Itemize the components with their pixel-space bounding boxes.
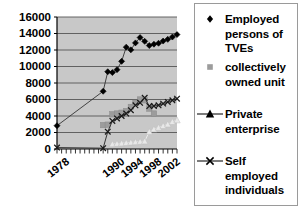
square-marker-icon bbox=[195, 60, 225, 74]
legend-item: collectively owned unit bbox=[195, 60, 299, 89]
y-tick-label: 0 bbox=[45, 143, 51, 155]
x-tick-label: 1978 bbox=[45, 155, 72, 180]
y-tick-label: 14000 bbox=[19, 27, 51, 39]
triangle-marker-icon bbox=[195, 107, 225, 121]
x-tick-label: 2002 bbox=[155, 155, 182, 180]
legend-item: Private enterprise bbox=[195, 107, 299, 136]
x-axis-tick-marks bbox=[57, 149, 177, 154]
x-axis-tick-labels: 19781990199419982002 bbox=[45, 155, 182, 180]
y-tick-label: 10000 bbox=[19, 60, 51, 72]
legend-item-label: Self employed individuals bbox=[225, 154, 284, 198]
chart-legend: Employed persons of TVEs collectively ow… bbox=[194, 3, 298, 206]
y-tick-label: 4000 bbox=[25, 110, 51, 122]
y-axis-tick-labels: 1600014000120001000080006000400020000 bbox=[19, 11, 51, 155]
y-tick-label: 12000 bbox=[19, 44, 51, 56]
cross-marker-icon bbox=[195, 154, 225, 168]
legend-item-label: Private enterprise bbox=[225, 107, 280, 136]
chart-figure: 1600014000120001000080006000400020000 19… bbox=[0, 0, 301, 211]
y-tick-label: 2000 bbox=[25, 126, 51, 138]
legend-item-label: Employed persons of TVEs bbox=[225, 12, 283, 56]
legend-item: Self employed individuals bbox=[195, 154, 299, 198]
legend-item: Employed persons of TVEs bbox=[195, 12, 299, 56]
diamond-marker-icon bbox=[195, 12, 225, 26]
data-point-square bbox=[151, 111, 156, 116]
legend-item-label: collectively owned unit bbox=[225, 60, 286, 89]
y-tick-label: 16000 bbox=[19, 11, 51, 23]
y-tick-label: 6000 bbox=[25, 93, 51, 105]
y-tick-label: 8000 bbox=[25, 77, 51, 89]
